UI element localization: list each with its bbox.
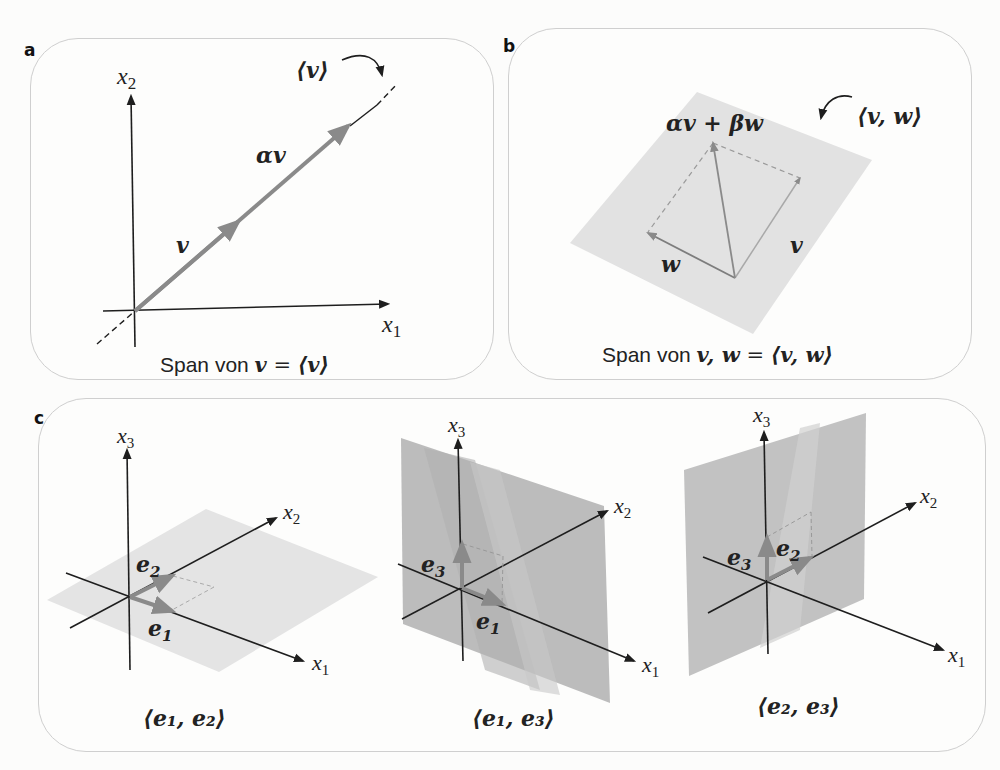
span-e1-e3-caption: ⟨e₁, e₃⟩ xyxy=(472,705,555,731)
span-e2-e3-caption: ⟨e₂, e₃⟩ xyxy=(757,693,840,719)
panel-c-diagram: x3 x2 x1 e2 e1 ⟨e₁, e₂⟩ x3 x2 x1 e3 e1 ⟨… xyxy=(0,0,1000,770)
x1-label: x1 xyxy=(947,642,965,670)
x2-label: x2 xyxy=(282,499,300,527)
subfigure-e2-e3: x3 x2 x1 e3 e2 ⟨e₂, e₃⟩ xyxy=(684,402,965,719)
subfigure-e1-e2: x3 x2 x1 e2 e1 ⟨e₁, e₂⟩ xyxy=(47,423,378,731)
subfigure-e1-e3: x3 x2 x1 e3 e1 ⟨e₁, e₃⟩ xyxy=(398,412,659,731)
x3-label: x3 xyxy=(116,423,134,451)
x1-label: x1 xyxy=(641,652,659,680)
x2-label: x2 xyxy=(613,493,631,521)
x3-label: x3 xyxy=(447,412,465,440)
span-e1-e2-caption: ⟨e₁, e₂⟩ xyxy=(143,705,226,731)
x2-label: x2 xyxy=(919,483,937,511)
plane-e1-e2 xyxy=(47,509,378,672)
x1-label: x1 xyxy=(311,650,329,678)
x3-label: x3 xyxy=(752,402,770,430)
